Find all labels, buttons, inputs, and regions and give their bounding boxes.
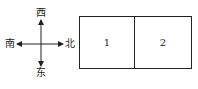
box-1-label: 1 xyxy=(104,37,110,48)
compass-south-label: 南 xyxy=(5,39,15,49)
box-1: 1 xyxy=(79,16,135,69)
compass-north-label: 北 xyxy=(65,39,75,49)
compass-east-label: 东 xyxy=(36,68,46,78)
box-2: 2 xyxy=(134,16,192,69)
box-2-label: 2 xyxy=(160,37,166,48)
compass-west-label: 西 xyxy=(36,8,46,18)
